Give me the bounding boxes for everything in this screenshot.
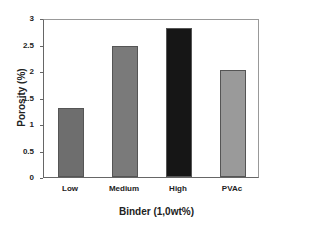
y-tick-label: 0.5	[14, 147, 34, 156]
bar-low	[58, 108, 84, 177]
plot-area	[43, 19, 259, 178]
y-tick-label: 2	[14, 67, 34, 76]
x-axis-label: Binder (1,0wt%)	[0, 206, 313, 217]
x-tick-label: PVAc	[207, 184, 257, 193]
y-tick-label: 1.5	[14, 94, 34, 103]
bar-medium	[112, 46, 138, 177]
bar-pvac	[220, 70, 246, 177]
x-tick-label: Medium	[99, 184, 149, 193]
x-tick-label: Low	[45, 184, 95, 193]
bar-high	[166, 28, 192, 177]
y-tick-label: 0	[14, 173, 34, 182]
y-tick-label: 1	[14, 120, 34, 129]
y-tick-label: 2.5	[14, 41, 34, 50]
x-tick-label: High	[153, 184, 203, 193]
y-tick-mark	[40, 178, 43, 179]
y-tick-label: 3	[14, 14, 34, 23]
